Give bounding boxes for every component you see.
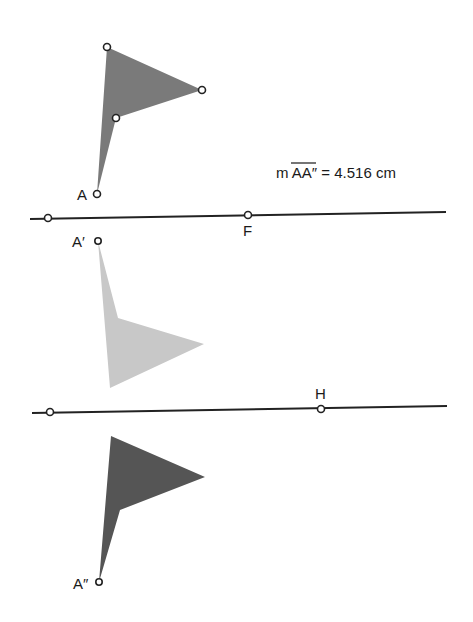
mirror-line-1-point[interactable] [45,215,52,222]
label-a-prime: A′ [72,233,85,250]
mirror-line-2[interactable] [32,406,447,413]
measurement-segment: AA″ [292,164,318,181]
label-a-double-prime: A″ [73,575,89,592]
measurement-value: = 4.516 cm [317,164,396,181]
point-a[interactable] [94,191,101,198]
label-h: H [315,385,326,402]
measurement-text: m AA″ = 4.516 cm [276,164,396,181]
point-f[interactable] [245,212,252,219]
label-f: F [243,222,252,239]
point-inner-vertex[interactable] [113,115,120,122]
label-a: A [77,186,87,203]
point-right-vertex[interactable] [199,87,206,94]
point-h[interactable] [318,406,325,413]
measurement-prefix: m [276,164,292,181]
point-a-double-prime[interactable] [96,579,102,585]
mirror-line-1[interactable] [30,212,446,219]
geometry-canvas: A m AA″ = 4.516 cm F A′ H A″ [0,0,473,622]
mirror-line-2-point[interactable] [47,409,54,416]
point-a-prime[interactable] [95,238,101,244]
second-reflection-figure[interactable] [99,436,205,582]
first-reflection-figure[interactable] [98,241,204,388]
point-top-vertex[interactable] [104,44,111,51]
